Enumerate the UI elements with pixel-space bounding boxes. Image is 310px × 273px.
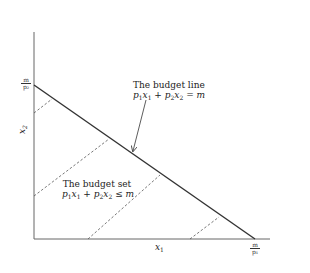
x2-axis-label: x2 (17, 125, 28, 134)
budget-line-annotation: The budget line p1x1 + p2x2 = m (133, 80, 197, 103)
x-intercept-label: m p₁ (250, 242, 260, 255)
budget-line-title: The budget line (133, 80, 197, 90)
x1-axis-label: x1 (155, 242, 164, 255)
eq-m: m (126, 189, 135, 199)
x-intercept-denominator: p₁ (250, 249, 260, 255)
budget-line-equation: p1x1 + p2x2 = m (133, 90, 197, 103)
budget-set-title: The budget set (62, 179, 132, 189)
eq-op: + (81, 189, 94, 199)
budget-line (34, 85, 255, 239)
eq-m: m (197, 90, 206, 100)
y-intercept-denominator: p₂ (21, 84, 31, 90)
x2-subscript: 2 (21, 125, 28, 129)
x1-subscript: 1 (160, 246, 164, 253)
y-intercept-label: m p₂ (21, 77, 31, 90)
eq-op: = (183, 90, 196, 100)
x2-symbol: x (17, 129, 27, 134)
dashed-line-1 (34, 99, 52, 113)
budget-line-arrow (133, 100, 146, 151)
budget-set-annotation: The budget set p1x1 + p2x2 ≤ m (62, 179, 132, 202)
eq-op: + (152, 90, 165, 100)
budget-diagram (0, 0, 310, 273)
eq-op: ≤ (112, 189, 125, 199)
dashed-line-4 (190, 217, 219, 239)
budget-set-equation: p1x1 + p2x2 ≤ m (62, 189, 132, 202)
